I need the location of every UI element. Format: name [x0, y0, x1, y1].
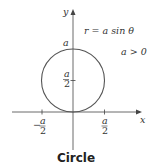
equation-label: r = a sin θ — [84, 25, 134, 36]
y-top-label: a — [63, 37, 69, 48]
y-axis-label: y — [62, 6, 69, 17]
condition-label: a > 0 — [121, 46, 147, 57]
svg-text:2: 2 — [102, 125, 108, 136]
x-axis-label: x — [140, 114, 146, 125]
svg-text:2: 2 — [64, 78, 70, 89]
x-pos-half-label: a 2 — [102, 115, 109, 136]
y-axis — [71, 9, 76, 150]
svg-text:2: 2 — [40, 125, 46, 136]
x-neg-half-label: − a 2 — [33, 115, 46, 136]
polar-circle-diagram: y x a a 2 − a 2 a 2 r = a sin θ a > 0 Ci… — [0, 0, 152, 168]
y-half-label: a 2 — [63, 68, 70, 89]
diagram-caption: Circle — [57, 151, 95, 165]
